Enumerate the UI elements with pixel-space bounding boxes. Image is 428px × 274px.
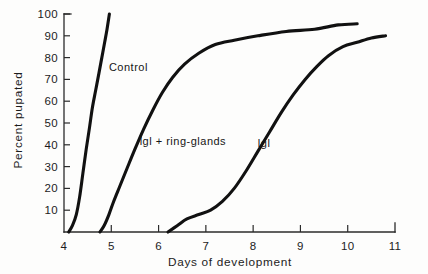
series-label-control: Control — [109, 61, 148, 73]
y-axis-tick-label: 70 — [44, 73, 58, 85]
series-curve-lgl-ring-glands — [100, 24, 357, 232]
y-axis-tick-label: 40 — [44, 139, 58, 151]
y-axis-tick-labels: 102030405060708090100 — [38, 8, 58, 216]
y-axis-tick-label: 10 — [44, 204, 58, 216]
x-axis-tick-label: 10 — [341, 240, 355, 252]
y-axis-tick-label: 80 — [44, 52, 58, 64]
y-axis-tick-label: 90 — [44, 30, 58, 42]
x-axis-tick-label: 5 — [108, 240, 115, 252]
y-axis-tick-label: 20 — [44, 182, 58, 194]
x-axis-tick-label: 9 — [297, 240, 304, 252]
x-axis-tick-label: 4 — [61, 240, 68, 252]
x-axis-tick-label: 7 — [202, 240, 209, 252]
chart-series-curves — [69, 14, 386, 232]
y-axis-title: Percent pupated — [11, 71, 25, 168]
chart-plot-area: 102030405060708090100 4567891011 Control… — [0, 0, 428, 274]
x-axis-tick-labels: 4567891011 — [61, 240, 402, 252]
series-curve-control — [69, 14, 110, 232]
x-axis-tick-label: 6 — [155, 240, 162, 252]
chart-tick-marks — [64, 14, 348, 232]
series-label-lgl: lgl — [258, 137, 271, 149]
chart-series-labels: Controllgl + ring-glandslgl — [109, 61, 270, 149]
chart-figure: 102030405060708090100 4567891011 Control… — [0, 0, 428, 274]
y-axis-tick-label: 50 — [44, 117, 58, 129]
y-axis-tick-label: 30 — [44, 161, 58, 173]
y-axis-tick-label: 100 — [38, 8, 58, 20]
y-axis-tick-label: 60 — [44, 95, 58, 107]
x-axis-tick-label: 11 — [389, 240, 402, 252]
x-axis-title: Days of development — [168, 255, 292, 269]
x-axis-tick-label: 8 — [250, 240, 257, 252]
series-label-lgl-ring-glands: lgl + ring-glands — [140, 135, 226, 147]
